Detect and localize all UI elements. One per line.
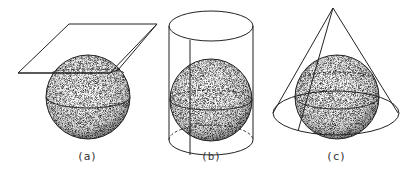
cylinder-top (169, 11, 253, 41)
panel-a: (a) (18, 24, 157, 163)
panel-b: (b) (169, 11, 253, 163)
panel-label-c: (c) (326, 150, 346, 163)
panel-label-a: (a) (77, 150, 97, 163)
panel-c: (c) (273, 8, 399, 163)
panel-label-b: (b) (201, 150, 221, 163)
figure-canvas: (a) (b) (c) (0, 0, 409, 186)
